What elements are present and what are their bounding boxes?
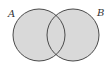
set-a-label: A [7,8,15,19]
set-b-label: B [96,7,104,18]
union-shading [13,9,99,61]
venn-diagram: A B [0,0,112,67]
